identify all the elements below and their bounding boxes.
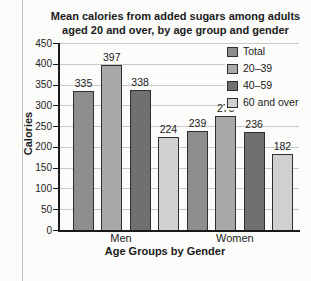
y-tick-label: 400 [22,58,52,69]
chart-title: Mean calories from added sugars among ad… [40,10,311,37]
legend-swatch [227,81,238,91]
y-tick [53,105,58,106]
y-tick-label: 450 [22,38,52,49]
y-tick-label: 350 [22,79,52,90]
y-tick [53,126,58,127]
chart-title-line1: Mean calories from added sugars among ad… [40,10,311,24]
legend-row: 20–39 [227,63,298,74]
legend-label: 60 and over [243,97,298,108]
chart-title-line2: aged 20 and over, by age group and gende… [40,24,311,38]
bar-value-label: 236 [234,118,275,130]
legend-row: 40–59 [227,80,298,91]
x-category-label: Women [200,232,270,244]
bar-value-label: 182 [262,140,303,152]
y-tick-label: 250 [22,121,52,132]
x-axis-title: Age Groups by Gender [0,245,311,257]
bar [215,116,236,231]
legend: Total20–3940–5960 and over [225,44,301,110]
y-tick [53,147,58,148]
bar [158,137,179,231]
scanned-chart-page: Mean calories from added sugars among ad… [0,0,311,281]
bar [101,65,122,231]
y-tick-label: 100 [22,183,52,194]
bar [272,154,293,231]
y-axis-line [58,43,60,230]
y-tick-label: 0 [22,225,52,236]
y-tick [53,64,58,65]
y-tick [53,43,58,44]
x-axis-line [58,230,300,232]
bar-value-label: 338 [120,76,161,88]
legend-swatch [227,47,238,57]
y-tick-label: 50 [22,204,52,215]
bar [73,91,94,231]
bar-value-label: 239 [177,117,218,129]
legend-swatch [227,64,238,74]
y-tick [53,168,58,169]
y-tick [53,85,58,86]
x-category-label: Men [86,232,156,244]
bar-value-label: 335 [63,77,104,89]
y-tick-label: 150 [22,162,52,173]
y-tick [53,209,58,210]
legend-label: 20–39 [243,63,272,74]
legend-row: 60 and over [227,97,298,108]
legend-swatch [227,98,238,108]
y-tick-label: 200 [22,141,52,152]
legend-row: Total [227,46,298,57]
legend-label: Total [243,46,265,57]
bar [130,90,151,232]
bar [187,131,208,231]
y-tick-label: 300 [22,100,52,111]
bar-value-label: 397 [91,51,132,63]
y-tick [53,188,58,189]
legend-label: 40–59 [243,80,272,91]
y-axis-title: Calories [22,104,35,164]
